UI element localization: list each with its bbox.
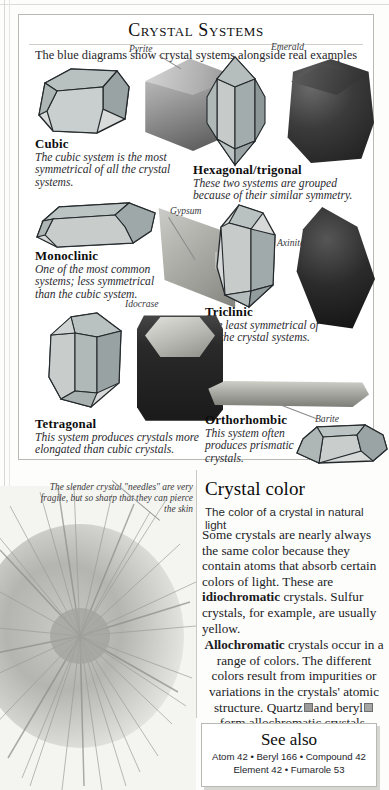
entry-cubic-desc: The cubic system is the most symmetrical… [35,152,185,189]
specimen-label-axinite: Axinite [277,237,304,248]
entry-triclinic-desc: The least symmetrical of all the crystal… [205,320,325,345]
see-also-box: See also Atom 42 • Beryl 166 • Compound … [201,723,377,787]
see-also-title: See also [202,724,376,750]
diagram-monoclinic [33,199,165,255]
diagram-triclinic [205,201,291,315]
entry-monoclinic-desc: One of the most common systems; less sym… [35,264,169,301]
para3-prefix: Quartz [267,700,303,715]
entry-triclinic: Triclinic The least symmetrical of all t… [205,305,325,345]
entry-cubic-name: Cubic [35,137,185,152]
specimen-photo-barite [205,381,369,407]
para1-text-a: Some crystals are nearly always the same… [202,527,376,589]
specimen-label-idocrase: Idocrase [125,298,159,309]
entry-tetragonal-desc: This system produces crystals more elong… [35,432,207,457]
diagram-orthorhombic [289,421,389,465]
swatch-quartz [304,703,313,712]
crystal-color-body: Some crystals are nearly always the same… [202,527,386,731]
entry-cubic: Cubic The cubic system is the most symme… [35,137,185,189]
entry-triclinic-name: Triclinic [205,305,325,320]
term-allochromatic: Allochromatic [204,637,284,652]
page-top-rule [0,4,389,5]
crystal-color-heading: Crystal color [205,478,305,500]
see-also-line-1[interactable]: Atom 42 • Beryl 166 • Compound 42 [202,750,376,763]
crystal-color-paragraph-1: Some crystals are nearly always the same… [202,527,386,636]
entry-orthorhombic-name: Orthorhombic [205,413,297,428]
specimen-label-gypsum: Gypsum [170,205,201,216]
crystal-systems-panel: Crystal Systems The blue diagrams show c… [18,14,374,460]
diagram-hexagonal-trigonal [195,53,279,171]
entry-orthorhombic: Orthorhombic This system often produces … [205,413,297,465]
see-also-line-2[interactable]: Element 42 • Fumarole 53 [202,763,376,776]
entry-hexagonal-trigonal: Hexagonal/trigonal These two systems are… [193,163,369,203]
column-divider [196,470,197,718]
entry-hexagonal-trigonal-desc: These two systems are grouped because of… [193,178,369,203]
page-root: Crystal Systems The blue diagrams show c… [0,0,389,790]
entry-monoclinic-name: Monoclinic [35,249,169,264]
entry-monoclinic: Monoclinic One of the most common system… [35,249,169,301]
diagram-tetragonal [35,311,135,415]
specimen-label-emerald: Emerald [271,41,304,52]
entry-orthorhombic-desc: This system often produces prismatic cry… [205,428,297,465]
needle-crystal-photo [0,486,196,790]
panel-title: Crystal Systems [19,15,373,41]
crystal-color-paragraph-2: Allochromatic crystals occur in a range … [202,637,386,731]
needle-photo-caption: The slender crystal "needles" are very f… [28,482,193,515]
entry-tetragonal: Tetragonal This system produces crystals… [35,417,207,457]
swatch-beryl [364,703,373,712]
entry-hexagonal-trigonal-name: Hexagonal/trigonal [193,163,369,178]
entry-tetragonal-name: Tetragonal [35,417,207,432]
diagram-cubic [25,61,141,141]
specimen-label-pyrite: Pyrite [129,43,152,54]
term-idiochromatic: idiochromatic [202,589,280,604]
para3-mid: and beryl [314,700,363,715]
